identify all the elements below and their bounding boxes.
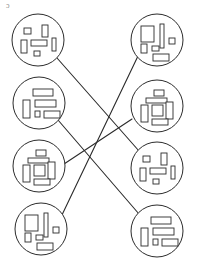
pattern-rect-stacked-bars-4 [44, 111, 60, 118]
pattern-rect-small-scatter-3 [150, 168, 166, 174]
connection-line-left-1-to-right-3[interactable] [57, 58, 139, 151]
pattern-rect-stacked-bars-1 [141, 228, 148, 246]
pattern-rect-small-scatter-1 [161, 153, 167, 165]
pattern-rect-small-scatter-1 [42, 25, 48, 37]
circle-node-left-2[interactable] [13, 77, 65, 129]
pattern-rect-small-scatter-4 [171, 166, 175, 179]
circle-node-right-3[interactable] [131, 142, 183, 194]
pattern-rect-vertical-cluster-0 [36, 150, 46, 156]
pattern-rect-vertical-cluster-4 [48, 162, 55, 179]
circle-layer [12, 14, 183, 257]
connection-line-left-3-to-right-2[interactable] [64, 119, 132, 164]
circle-node-left-4[interactable] [15, 203, 67, 255]
pattern-rect-stacked-bars-0 [33, 89, 53, 96]
pattern-rect-small-scatter-0 [143, 156, 150, 162]
pattern-rect-small-scatter-2 [21, 40, 27, 53]
pattern-rect-vertical-cluster-3 [152, 105, 163, 116]
pattern-rect-vertical-cluster-5 [152, 119, 168, 125]
pattern-rect-stacked-bars-0 [151, 217, 171, 224]
circle-node-right-1[interactable] [131, 14, 183, 66]
pattern-rect-vertical-cluster-4 [166, 102, 173, 119]
circle-node-right-2[interactable] [131, 80, 183, 132]
pattern-rect-big-block-bar-0 [25, 215, 38, 231]
pattern-rect-big-block-bar-2 [169, 38, 175, 44]
pattern-rect-stacked-bars-3 [35, 111, 40, 117]
pattern-rect-stacked-bars-2 [35, 100, 56, 107]
pattern-rect-small-scatter-2 [140, 168, 146, 181]
pattern-rect-big-block-bar-1 [160, 24, 164, 48]
pattern-rect-big-block-bar-0 [141, 26, 154, 42]
circle-node-left-1[interactable] [12, 14, 64, 66]
pattern-rect-stacked-bars-2 [153, 228, 174, 235]
pattern-rect-big-block-bar-4 [36, 235, 43, 240]
pattern-rect-small-scatter-0 [24, 28, 31, 34]
pattern-rect-vertical-cluster-2 [23, 165, 30, 182]
pattern-rect-vertical-cluster-0 [154, 90, 164, 96]
pattern-rect-small-scatter-5 [153, 179, 159, 184]
pattern-rect-big-block-bar-5 [153, 54, 169, 61]
connection-layer [57, 56, 139, 217]
pattern-rect-vertical-cluster-2 [141, 105, 148, 122]
puzzle-canvas [0, 0, 197, 273]
pattern-rect-stacked-bars-1 [23, 100, 30, 118]
pattern-rect-big-block-bar-4 [152, 46, 159, 51]
matching-puzzle-diagram: ɔ [0, 0, 197, 273]
pattern-rect-vertical-cluster-3 [34, 165, 45, 176]
pattern-rect-small-scatter-3 [31, 40, 47, 46]
pattern-rect-stacked-bars-4 [162, 239, 178, 246]
connection-line-left-2-to-right-4[interactable] [58, 120, 139, 214]
pattern-rect-vertical-cluster-1 [146, 98, 167, 103]
pattern-rect-small-scatter-4 [52, 38, 56, 51]
pattern-rect-big-block-bar-5 [37, 243, 53, 250]
circle-node-right-4[interactable] [131, 205, 183, 257]
pattern-rect-big-block-bar-3 [141, 44, 147, 53]
pattern-rect-big-block-bar-3 [25, 233, 31, 242]
pattern-rect-small-scatter-5 [34, 51, 40, 56]
pattern-rect-big-block-bar-2 [53, 227, 59, 233]
pattern-rect-vertical-cluster-5 [34, 179, 50, 185]
pattern-rect-big-block-bar-1 [44, 213, 48, 237]
pattern-rect-vertical-cluster-1 [28, 158, 49, 163]
pattern-rect-stacked-bars-3 [153, 239, 158, 245]
circle-node-left-3[interactable] [13, 140, 65, 192]
